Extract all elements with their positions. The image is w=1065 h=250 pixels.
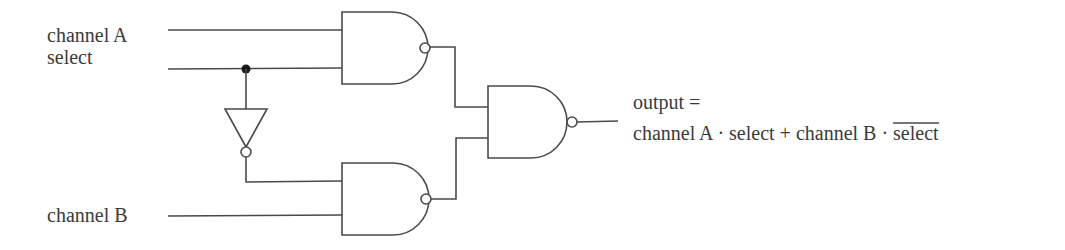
nand-gate-2	[342, 163, 431, 235]
wire-channel-b	[168, 215, 342, 216]
label-channel-b: channel B	[47, 204, 128, 226]
nand1-bubble	[420, 43, 430, 53]
nand-gate-3	[488, 86, 577, 158]
wire-nand1-to-nand3	[430, 47, 488, 107]
inverter-gate	[225, 109, 267, 157]
wire-output	[577, 121, 618, 122]
nand2-bubble	[421, 194, 431, 204]
nand-gate-1	[342, 12, 430, 84]
wire-select	[168, 68, 342, 69]
inverter-triangle	[225, 109, 267, 147]
wire-inverter-to-nand2	[246, 157, 342, 182]
output-expression-main: channel A · select + channel B ·	[633, 122, 893, 144]
output-expression-inverted-select: select	[893, 122, 939, 144]
nand3-body	[488, 86, 567, 158]
wire-nand2-to-nand3	[431, 138, 488, 199]
nand2-body	[342, 163, 429, 235]
inverter-bubble	[241, 147, 251, 157]
label-channel-a: channel A	[47, 24, 128, 46]
output-label: output =	[633, 91, 700, 114]
label-select: select	[47, 46, 93, 68]
nand3-bubble	[567, 117, 577, 127]
output-expression: channel A · select + channel B · select	[633, 122, 939, 144]
multiplexer-diagram: channel A select channel B output = chan…	[0, 0, 1065, 250]
nand1-body	[342, 12, 428, 84]
